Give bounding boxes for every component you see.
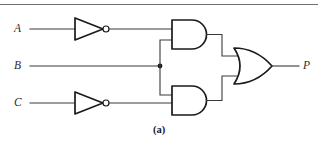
logic-circuit-figure: A B C P (a)	[0, 0, 322, 149]
and-gate-bottom-body	[172, 86, 207, 115]
input-label-c: C	[14, 97, 22, 109]
input-label-b: B	[14, 60, 21, 72]
or-gate-body	[234, 48, 272, 84]
and-gate-top-body	[172, 20, 207, 49]
wire-and-bottom-to-or	[207, 76, 240, 101]
wire-b-to-and-bottom	[160, 66, 172, 95]
figure-caption: (a)	[153, 125, 165, 136]
not-gate-a-body	[75, 18, 103, 40]
not-gate-c-bubble	[103, 100, 109, 106]
wire-and-top-to-or	[207, 35, 240, 57]
wire-b-to-and-top	[160, 40, 172, 66]
output-label-p: P	[303, 60, 310, 72]
not-gate-a-bubble	[103, 26, 109, 32]
input-label-a: A	[14, 23, 21, 35]
not-gate-c-body	[75, 92, 103, 114]
